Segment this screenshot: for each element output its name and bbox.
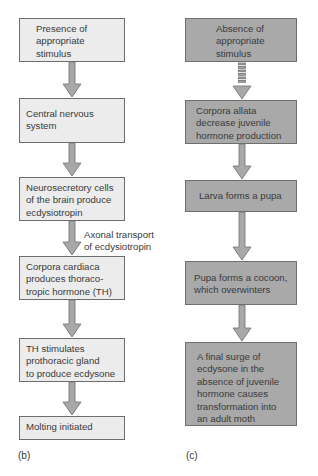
- step-b-4-corpora-cardiaca: Corpora cardiaca produces thoraco- tropi…: [19, 256, 125, 300]
- step-b-2-central-nervous-system: Central nervous system: [19, 98, 125, 143]
- arrow-down-icon: [232, 305, 252, 342]
- step-b-1-presence-of-stimulus: Presence of appropriate stimulus: [19, 18, 125, 62]
- step-c-3-larva-forms-pupa: Larva forms a pupa: [185, 180, 297, 212]
- step-text: Central nervous system: [26, 108, 118, 133]
- step-text: Pupa forms a cocoon, which overwinters: [194, 272, 290, 297]
- arrow-down-icon: [62, 221, 82, 256]
- panel-label-c: (c): [186, 450, 198, 461]
- step-text: Absence of appropriate stimulus: [216, 23, 290, 60]
- step-text: TH stimulates prothoracic gland to produ…: [26, 343, 118, 380]
- step-text: A final surge of ecdysone in the absence…: [197, 351, 290, 425]
- arrow-down-icon: [232, 212, 252, 261]
- step-b-3-neurosecretory-cells: Neurosecretory cells of the brain produc…: [19, 177, 125, 221]
- step-c-2-corpora-allata: Corpora allata decrease juvenile hormone…: [185, 100, 297, 144]
- arrow-down-icon: [62, 382, 82, 416]
- arrow-down-icon: [62, 143, 82, 177]
- step-b-6-molting-initiated: Molting initiated: [19, 416, 125, 440]
- arrow-down-icon: [62, 62, 82, 98]
- axonal-transport-annotation: Axonal transport of ecdysiotropin: [84, 229, 154, 253]
- step-text: Molting initiated: [26, 421, 118, 433]
- step-text: Corpora allata decrease juvenile hormone…: [196, 105, 290, 142]
- step-c-5-final-ecdysone-surge: A final surge of ecdysone in the absence…: [185, 342, 297, 426]
- step-text: Larva forms a pupa: [199, 190, 290, 202]
- dashed-arrow-down-icon: [232, 62, 252, 100]
- step-c-1-absence-of-stimulus: Absence of appropriate stimulus: [185, 18, 297, 62]
- step-c-4-pupa-forms-cocoon: Pupa forms a cocoon, which overwinters: [185, 261, 297, 305]
- step-text: Corpora cardiaca produces thoraco- tropi…: [26, 261, 118, 298]
- step-text: Neurosecretory cells of the brain produc…: [26, 182, 118, 219]
- arrow-down-icon: [232, 144, 252, 180]
- arrow-down-icon: [62, 300, 82, 338]
- panel-label-b: (b): [18, 450, 30, 461]
- step-text: Presence of appropriate stimulus: [36, 23, 118, 60]
- step-b-5-th-stimulates: TH stimulates prothoracic gland to produ…: [19, 338, 125, 382]
